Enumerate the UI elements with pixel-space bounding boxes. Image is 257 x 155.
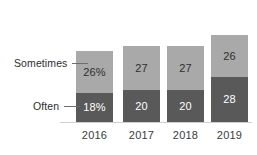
bar-value-sometimes-2017: 27: [135, 63, 147, 74]
bar-value-sometimes-2018: 27: [179, 63, 191, 74]
bar-segment-sometimes-2019[interactable]: 26: [211, 35, 248, 77]
callout-sometimes: Sometimes: [14, 57, 88, 69]
bar-value-often-2017: 20: [135, 101, 147, 112]
bar-group-2018[interactable]: 27 20: [167, 46, 204, 122]
bar-segment-sometimes-2017[interactable]: 27: [123, 46, 160, 90]
bar-segment-often-2019[interactable]: 28: [211, 77, 248, 122]
bar-value-sometimes-2019: 26: [223, 51, 235, 62]
callout-often: Often: [33, 100, 80, 112]
callout-often-leader-line: [64, 106, 80, 107]
x-tick-label-2016: 2016: [76, 129, 113, 141]
bar-value-often-2016: 18%: [83, 102, 105, 113]
bar-group-2017[interactable]: 27 20: [123, 46, 160, 122]
bar-segment-often-2017[interactable]: 20: [123, 90, 160, 122]
bar-segment-often-2016[interactable]: 18%: [76, 93, 113, 122]
bar-stack-2018: 27 20: [167, 46, 204, 122]
x-tick-label-2019: 2019: [211, 129, 248, 141]
bar-segment-often-2018[interactable]: 20: [167, 90, 204, 122]
callout-often-label: Often: [33, 100, 59, 112]
bar-stack-2019: 26 28: [211, 35, 248, 122]
bar-group-2019[interactable]: 26 28: [211, 35, 248, 122]
callout-sometimes-label: Sometimes: [14, 57, 67, 69]
x-tick-label-2018: 2018: [167, 129, 204, 141]
x-tick-label-2017: 2017: [123, 129, 160, 141]
x-axis-line: [60, 122, 252, 123]
bar-segment-sometimes-2018[interactable]: 27: [167, 46, 204, 90]
callout-sometimes-leader-line: [72, 63, 88, 64]
bar-stack-2017: 27 20: [123, 46, 160, 122]
bar-value-often-2019: 28: [223, 94, 235, 105]
bar-value-often-2018: 20: [179, 101, 191, 112]
stacked-bar-chart: 26% 18% 27 20 27: [0, 0, 257, 155]
